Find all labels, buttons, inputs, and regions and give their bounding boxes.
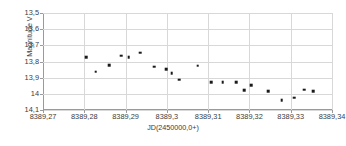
plot-area: [43, 13, 332, 110]
y-tick-label: 13,9: [3, 74, 39, 82]
y-tick-label: 13,6: [3, 25, 39, 33]
y-tick-mark: [40, 62, 43, 63]
y-tick-mark: [40, 78, 43, 79]
data-point: [243, 89, 246, 92]
data-point: [221, 81, 224, 84]
data-point: [108, 64, 111, 67]
x-tick-label: 8389,29: [112, 113, 139, 121]
data-point: [128, 56, 131, 59]
y-tick-mark: [40, 13, 43, 14]
x-tick-label: 8389,31: [195, 113, 222, 121]
chart-figure: Magnitude V 13,513,613,713,813,91414,1 8…: [0, 0, 346, 146]
x-tick-label: 8389,32: [236, 113, 263, 121]
y-tick-mark: [40, 94, 43, 95]
gridline-y: [43, 45, 332, 46]
data-point: [250, 84, 253, 87]
data-point: [171, 72, 174, 75]
gridline-x: [291, 13, 292, 110]
data-point: [139, 51, 142, 54]
data-point: [267, 90, 270, 93]
data-point: [280, 99, 283, 102]
y-tick-mark: [40, 29, 43, 30]
gridline-x: [126, 13, 127, 110]
x-tick-label: 8389,27: [30, 113, 57, 121]
gridline-y: [43, 29, 332, 30]
gridline-x: [84, 13, 85, 110]
x-axis-title: JD(2450000,0+): [0, 123, 346, 132]
data-point: [85, 56, 88, 59]
data-point: [303, 88, 306, 91]
data-point: [312, 90, 315, 93]
y-tick-mark: [40, 45, 43, 46]
data-point: [120, 54, 123, 57]
x-tick-label: 8389,28: [71, 113, 98, 121]
x-tick-label: 8389,33: [277, 113, 304, 121]
y-tick-label: 13,5: [3, 9, 39, 17]
y-tick-label: 14: [3, 90, 39, 98]
gridline-x: [167, 13, 168, 110]
gridline-x: [208, 13, 209, 110]
data-point: [178, 78, 181, 81]
data-point: [293, 96, 296, 99]
gridline-x: [249, 13, 250, 110]
gridline-x: [332, 13, 333, 110]
gridline-y: [43, 110, 332, 111]
x-tick-label: 8389,34: [319, 113, 346, 121]
y-tick-label: 13,7: [3, 41, 39, 49]
data-point: [165, 68, 168, 71]
y-tick-label: 13,8: [3, 58, 39, 66]
x-tick-label: 8389,3: [156, 113, 179, 121]
data-point: [153, 66, 156, 69]
figure-caption: [6, 139, 336, 146]
data-point: [197, 65, 200, 68]
gridline-y: [43, 94, 332, 95]
gridline-y: [43, 78, 332, 79]
data-point: [210, 81, 213, 84]
data-point: [235, 81, 238, 84]
gridline-y: [43, 13, 332, 14]
gridline-y: [43, 62, 332, 63]
data-point: [95, 70, 98, 73]
